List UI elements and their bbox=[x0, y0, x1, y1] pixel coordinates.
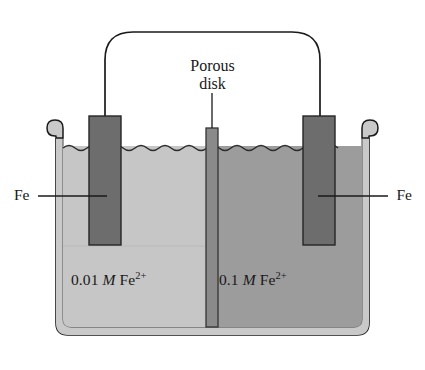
concentration-label-right: 0.1 M Fe2+ bbox=[219, 271, 287, 288]
fe-label-left: Fe bbox=[14, 186, 30, 203]
porous-disk-label-line2: disk bbox=[0, 75, 425, 93]
concentration-label-left: 0.01 M Fe2+ bbox=[71, 271, 147, 288]
iron-electrode-right bbox=[303, 116, 335, 245]
charge-left: 2+ bbox=[135, 270, 146, 281]
concentration-value-left: 0.01 bbox=[71, 271, 99, 288]
iron-electrode-left bbox=[89, 116, 121, 245]
concentration-cell-figure: Porous disk Fe Fe 0.01 M Fe2+ 0.1 M Fe2+ bbox=[0, 0, 425, 370]
molarity-unit-right: M bbox=[243, 271, 256, 288]
concentration-value-right: 0.1 bbox=[219, 271, 239, 288]
fe-label-right: Fe bbox=[397, 186, 413, 203]
porous-disk-separator bbox=[206, 128, 218, 327]
species-right: Fe bbox=[260, 271, 276, 288]
molarity-unit-left: M bbox=[103, 271, 116, 288]
diagram-canvas bbox=[0, 0, 425, 370]
species-left: Fe bbox=[120, 271, 136, 288]
porous-disk-label-line1: Porous bbox=[190, 57, 234, 74]
charge-right: 2+ bbox=[275, 270, 286, 281]
porous-disk-label: Porous disk bbox=[0, 57, 425, 93]
